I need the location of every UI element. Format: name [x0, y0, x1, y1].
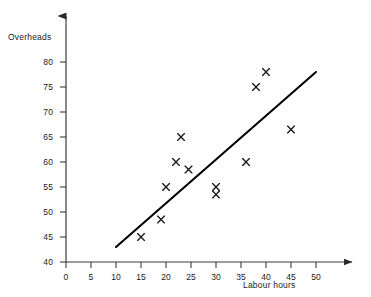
- x-tick-label: 15: [131, 272, 151, 282]
- data-point: [178, 134, 185, 141]
- x-tick-label: 10: [106, 272, 126, 282]
- data-point-markers: [138, 69, 295, 241]
- x-tick-label: 45: [281, 272, 301, 282]
- y-tick-label: 65: [31, 132, 53, 142]
- data-point: [288, 126, 295, 133]
- y-tick-label: 80: [31, 57, 53, 67]
- y-tick-label: 75: [31, 82, 53, 92]
- scatter-chart: Overheads Labour hours 80 75 70 65 60 55…: [0, 0, 371, 297]
- data-point: [158, 216, 165, 223]
- y-axis-title: Overheads: [8, 32, 51, 42]
- y-tick-label: 45: [31, 232, 53, 242]
- y-tick-label: 40: [31, 257, 53, 267]
- data-point: [163, 184, 170, 191]
- x-tick-label: 30: [206, 272, 226, 282]
- y-tick-label: 50: [31, 207, 53, 217]
- data-point: [253, 84, 260, 91]
- data-point: [213, 184, 220, 191]
- x-tick-label: 40: [256, 272, 276, 282]
- x-axis-ticks: [66, 262, 316, 268]
- data-point: [263, 69, 270, 76]
- axis-lines: [66, 16, 352, 262]
- x-tick-label: 25: [181, 272, 201, 282]
- x-tick-label: 5: [81, 272, 101, 282]
- data-point: [213, 191, 220, 198]
- plot-area: [0, 0, 371, 297]
- data-point: [173, 159, 180, 166]
- x-tick-label: 35: [231, 272, 251, 282]
- data-point: [185, 166, 192, 173]
- data-point: [243, 159, 250, 166]
- y-tick-label: 60: [31, 157, 53, 167]
- data-point: [138, 234, 145, 241]
- x-tick-label: 20: [156, 272, 176, 282]
- y-axis-ticks: [60, 62, 66, 262]
- y-tick-label: 70: [31, 107, 53, 117]
- x-tick-label: 0: [56, 272, 76, 282]
- trend-line: [116, 72, 316, 247]
- y-tick-label: 55: [31, 182, 53, 192]
- x-tick-label: 50: [306, 272, 326, 282]
